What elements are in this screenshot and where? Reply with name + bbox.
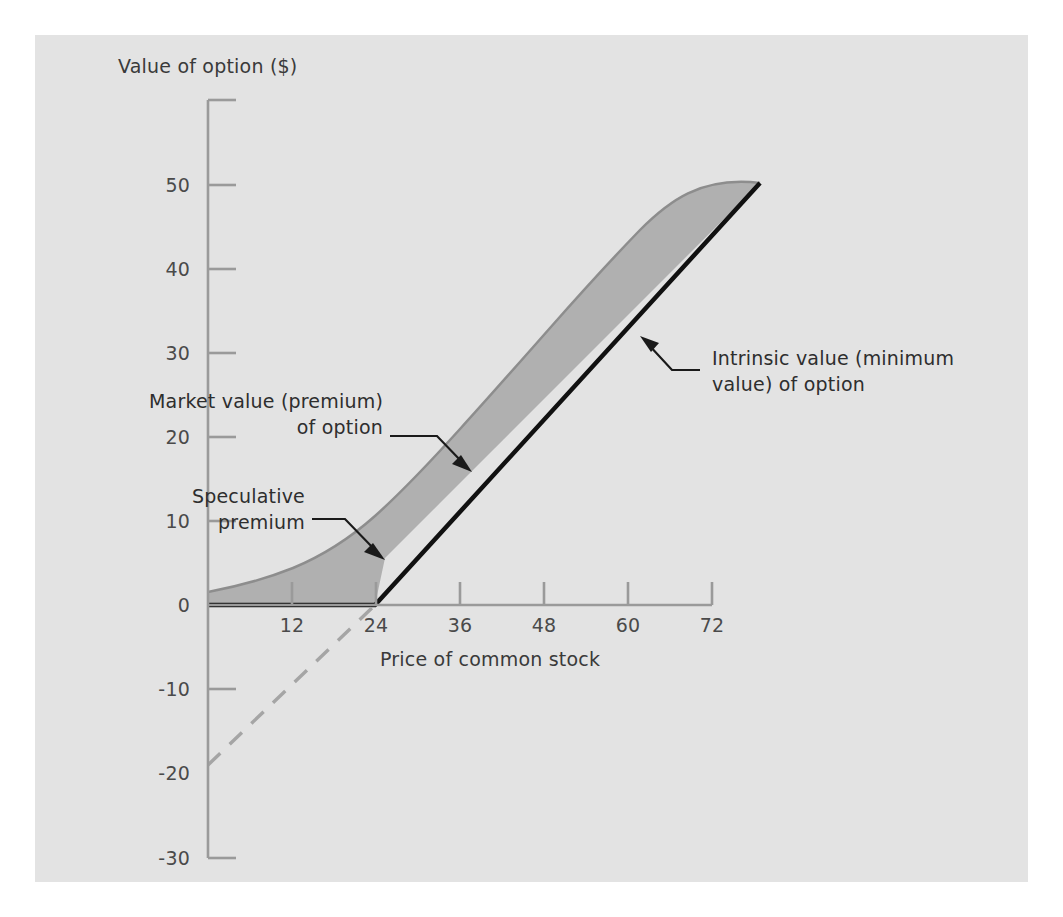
x-axis-title: Price of common stock: [380, 648, 600, 670]
annotation-market-value: Market value (premium) of option: [98, 388, 383, 440]
y-tick-label-40: 40: [150, 258, 190, 280]
x-tick-label-24: 24: [364, 614, 389, 636]
y-tick-label-neg30: -30: [134, 847, 190, 869]
y-tick-label-neg10: -10: [134, 678, 190, 700]
x-tick-label-48: 48: [532, 614, 557, 636]
x-tick-label-60: 60: [616, 614, 641, 636]
y-tick-label-50: 50: [150, 174, 190, 196]
x-tick-label-36: 36: [448, 614, 473, 636]
x-tick-label-72: 72: [700, 614, 725, 636]
figure: Value of option ($) Price of common stoc…: [0, 0, 1063, 917]
y-tick-label-neg20: -20: [134, 762, 190, 784]
intrinsic-value-leader: [640, 336, 700, 370]
annotation-intrinsic-value: Intrinsic value (minimum value) of optio…: [712, 345, 954, 397]
y-axis-title: Value of option ($): [118, 55, 297, 77]
annotation-speculative-premium: Speculative premium: [60, 483, 305, 535]
y-tick-label-0: 0: [150, 594, 190, 616]
y-tick-label-30: 30: [150, 342, 190, 364]
x-tick-label-12: 12: [280, 614, 305, 636]
